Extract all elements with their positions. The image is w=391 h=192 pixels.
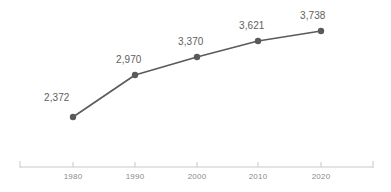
x-axis-group xyxy=(20,161,373,168)
data-point-marker xyxy=(194,54,200,60)
data-point-label: 3,621 xyxy=(239,20,265,31)
x-axis-tick-label: 1980 xyxy=(53,172,93,181)
x-axis-tick-label: 2020 xyxy=(301,172,341,181)
x-axis-tick-label: 2010 xyxy=(238,172,278,181)
data-point-marker xyxy=(318,28,324,34)
x-axis-tick-label: 2000 xyxy=(177,172,217,181)
data-point-marker xyxy=(132,72,138,78)
line-chart: 2,3722,9703,3703,6213,738 19801990200020… xyxy=(0,0,391,192)
data-point-label: 2,970 xyxy=(116,54,142,65)
data-point-label: 3,370 xyxy=(178,36,204,47)
data-point-label: 2,372 xyxy=(44,92,70,103)
data-point-label: 3,738 xyxy=(300,10,326,21)
data-point-marker xyxy=(255,38,261,44)
data-point-marker xyxy=(70,114,76,120)
x-axis-tick-label: 1990 xyxy=(115,172,155,181)
